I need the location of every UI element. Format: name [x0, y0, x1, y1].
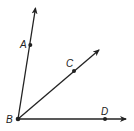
point-a-dot [28, 43, 32, 47]
angle-diagram: A C D B [0, 0, 134, 131]
label-b: B [6, 114, 13, 125]
point-c-dot [72, 69, 76, 73]
point-d-dot [103, 117, 107, 121]
label-a: A [19, 39, 27, 50]
ray-ba [18, 8, 36, 119]
label-c: C [66, 58, 74, 69]
vertex-b-dot [16, 117, 21, 122]
ray-bc [18, 50, 99, 119]
label-d: D [101, 106, 108, 117]
